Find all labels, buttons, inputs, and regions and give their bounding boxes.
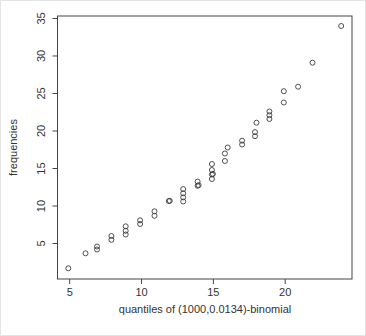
axis-ticks: 51015205101520253035: [35, 12, 291, 298]
data-point: [83, 251, 88, 256]
data-point: [209, 162, 214, 167]
plot-box: [58, 16, 353, 279]
data-point: [281, 100, 286, 105]
data-point: [222, 151, 227, 156]
y-tick-label: 5: [35, 240, 47, 246]
data-point: [296, 84, 301, 89]
data-point: [66, 266, 71, 271]
y-axis-label: frequencies: [7, 119, 19, 176]
plot-frame: [58, 16, 353, 279]
data-point: [310, 60, 315, 65]
data-point: [138, 218, 143, 223]
x-axis-label: quantiles of (1000,0.0134)-binomial: [119, 303, 291, 315]
y-tick-label: 20: [35, 125, 47, 137]
data-point: [222, 159, 227, 164]
y-tick-label: 35: [35, 12, 47, 24]
x-tick-label: 5: [67, 286, 73, 298]
scatter-plot: 51015205101520253035 quantiles of (1000,…: [1, 1, 366, 336]
x-tick-label: 10: [135, 286, 147, 298]
y-tick-label: 10: [35, 200, 47, 212]
y-tick-label: 15: [35, 162, 47, 174]
data-point: [281, 89, 286, 94]
qq-plot-figure: 51015205101520253035 quantiles of (1000,…: [0, 0, 366, 336]
x-tick-label: 20: [279, 286, 291, 298]
data-point: [339, 24, 344, 29]
data-point: [254, 120, 259, 125]
data-point: [267, 109, 272, 114]
data-point: [225, 145, 230, 150]
data-point: [95, 244, 100, 249]
x-tick-label: 15: [207, 286, 219, 298]
data-points: [66, 24, 344, 271]
y-tick-label: 30: [35, 50, 47, 62]
y-tick-label: 25: [35, 87, 47, 99]
